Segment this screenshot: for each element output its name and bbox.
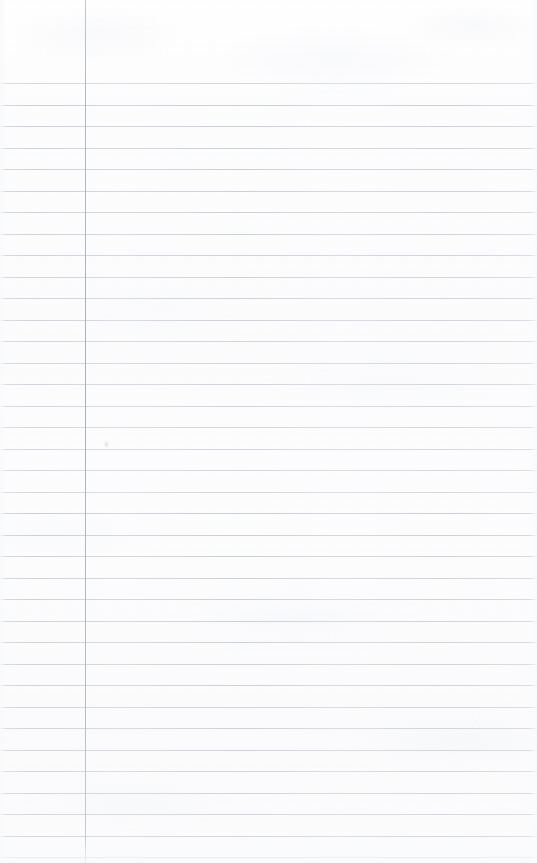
paper-background bbox=[0, 0, 537, 863]
notebook-page bbox=[0, 0, 537, 863]
